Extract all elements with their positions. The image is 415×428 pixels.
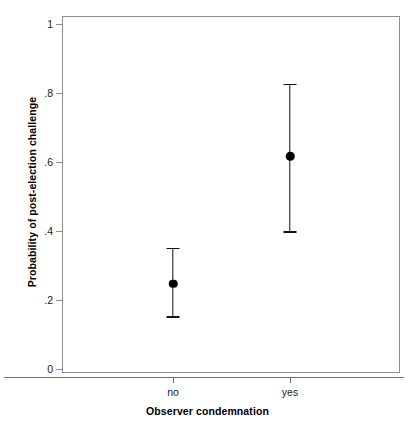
y-tick-label: .4 bbox=[44, 225, 53, 238]
plot-area-frame bbox=[62, 16, 400, 373]
marker-dot-no bbox=[169, 279, 178, 288]
chart-figure: 1 .8 .6 .4 .2 0 Probability of post-elec… bbox=[0, 0, 415, 428]
x-tick-mark-no bbox=[173, 378, 174, 383]
y-axis-title: Probability of post-election challenge bbox=[26, 72, 38, 312]
y-tick-label: .8 bbox=[44, 87, 53, 100]
x-tick-mark-yes bbox=[290, 378, 291, 383]
error-bar-cap-upper-no bbox=[167, 248, 180, 249]
y-tick-mark bbox=[56, 93, 62, 94]
y-tick-mark bbox=[56, 24, 62, 25]
x-axis-line bbox=[4, 377, 404, 378]
y-tick-label: .6 bbox=[44, 156, 53, 169]
error-bar-cap-upper-yes bbox=[284, 84, 297, 85]
x-tick-label-yes: yes bbox=[282, 386, 298, 398]
y-tick-label: 0 bbox=[47, 363, 53, 376]
y-tick-mark bbox=[56, 162, 62, 163]
y-tick-mark bbox=[56, 231, 62, 232]
y-tick-mark bbox=[56, 369, 62, 370]
y-tick-label: 1 bbox=[47, 18, 53, 31]
marker-dot-yes bbox=[286, 152, 295, 161]
x-tick-label-no: no bbox=[167, 386, 179, 398]
y-tick-mark bbox=[56, 300, 62, 301]
x-axis-title: Observer condemnation bbox=[0, 405, 415, 417]
error-bar-cap-lower-no bbox=[167, 316, 180, 317]
y-tick-label: .2 bbox=[44, 294, 53, 307]
error-bar-cap-lower-yes bbox=[284, 231, 297, 232]
